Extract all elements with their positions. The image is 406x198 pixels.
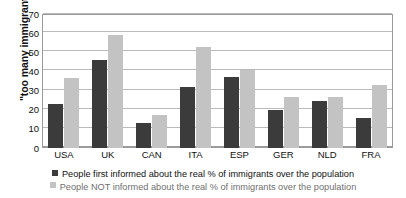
legend-label-not-informed: People NOT informed about the real % of … <box>60 181 357 191</box>
x-tick-label-uk: UK <box>86 150 130 160</box>
legend-label-informed: People first informed about the real % o… <box>62 169 354 179</box>
bar-group-ger <box>261 14 305 148</box>
bar-fra-series-1 <box>372 85 387 148</box>
bars-layer <box>42 14 393 148</box>
legend-swatch-informed-icon <box>52 170 58 176</box>
y-tick-label-50: 50 <box>3 48 39 58</box>
bar-group-esp <box>218 14 262 148</box>
x-tick-label-ger: GER <box>261 150 305 160</box>
bar-uk-series-1 <box>108 35 123 148</box>
bar-ger-series-0 <box>268 110 283 148</box>
bar-group-usa <box>42 14 86 148</box>
y-tick-label-10: 10 <box>3 124 39 134</box>
bar-group-fra <box>349 14 393 148</box>
chart-legend: People first informed about the real % o… <box>0 167 406 192</box>
bar-can-series-1 <box>152 115 167 149</box>
x-tick-label-usa: USA <box>42 150 86 160</box>
y-axis-tick-labels: 706050403020100 <box>0 14 39 148</box>
x-tick-label-ita: ITA <box>174 150 218 160</box>
bar-can-series-0 <box>136 123 151 148</box>
y-tick-label-20: 20 <box>3 105 39 115</box>
bar-usa-series-0 <box>48 104 63 148</box>
x-tick-label-can: CAN <box>130 150 174 160</box>
bar-esp-series-1 <box>240 70 255 148</box>
legend-entry-not-informed: People NOT informed about the real % of … <box>0 180 406 193</box>
bar-nld-series-0 <box>312 101 327 148</box>
legend-entry-informed: People first informed about the real % o… <box>0 167 406 180</box>
bar-chart: "too many immigrants" 706050403020100 US… <box>0 0 406 198</box>
legend-swatch-not-informed-icon <box>50 182 56 188</box>
bar-group-can <box>130 14 174 148</box>
bar-group-uk <box>86 14 130 148</box>
bar-group-nld <box>305 14 349 148</box>
bar-ita-series-1 <box>196 47 211 148</box>
bar-group-ita <box>174 14 218 148</box>
y-tick-label-0: 0 <box>3 144 39 154</box>
bar-ger-series-1 <box>284 97 299 148</box>
x-tick-label-nld: NLD <box>305 150 349 160</box>
y-tick-label-70: 70 <box>3 10 39 20</box>
bar-uk-series-0 <box>92 60 107 148</box>
bar-usa-series-1 <box>64 78 79 148</box>
bar-nld-series-1 <box>328 97 343 148</box>
y-tick-label-40: 40 <box>3 67 39 77</box>
bar-fra-series-0 <box>356 118 371 148</box>
y-tick-label-30: 30 <box>3 86 39 96</box>
bar-ita-series-0 <box>180 87 195 148</box>
x-axis-tick-labels: USAUKCANITAESPGERNLDFRA <box>42 150 393 164</box>
x-tick-label-fra: FRA <box>349 150 393 160</box>
y-tick-label-60: 60 <box>3 29 39 39</box>
x-tick-label-esp: ESP <box>218 150 262 160</box>
bar-esp-series-0 <box>224 77 239 148</box>
